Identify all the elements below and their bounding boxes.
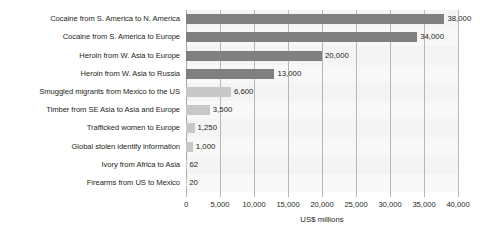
x-tick-label: 40,000: [446, 199, 469, 210]
value-axis-ticks: 05,00010,00015,00020,00025,00030,00035,0…: [0, 199, 492, 211]
axis-tick-mark: [288, 192, 289, 197]
plot-area: 38,00034,00020,00013,0006,6003,5001,2501…: [186, 10, 458, 192]
category-label: Cocaine from S. America to Europe: [0, 32, 180, 42]
x-tick-label: 20,000: [310, 199, 333, 210]
bar: [186, 105, 210, 115]
bar: [186, 32, 417, 42]
bar-value-label: 1,250: [195, 123, 218, 133]
axis-tick-mark: [186, 192, 187, 197]
category-label: Ivory from Africa to Asia: [0, 160, 180, 170]
bar-value-label: 3,500: [210, 105, 233, 115]
category-label: Global stolen identify information: [0, 142, 180, 152]
gridline: [458, 10, 459, 192]
category-axis: Cocaine from S. America to N. AmericaCoc…: [0, 10, 183, 192]
x-tick-label: 15,000: [276, 199, 299, 210]
bar-value-label: 62: [186, 160, 198, 170]
axis-tick-mark: [322, 192, 323, 197]
x-tick-label: 0: [184, 199, 188, 210]
bar-value-label: 13,000: [274, 69, 301, 79]
bar: [186, 51, 322, 61]
bar-value-label: 1,000: [193, 142, 216, 152]
axis-tick-mark: [424, 192, 425, 197]
category-label: Cocaine from S. America to N. America: [0, 14, 180, 24]
x-tick-label: 5,000: [210, 199, 229, 210]
bar-value-label: 38,000: [444, 14, 471, 24]
category-label: Timber from SE Asia to Asia and Europe: [0, 105, 180, 115]
bar: [186, 87, 231, 97]
axis-tick-mark: [220, 192, 221, 197]
bar: [186, 69, 274, 79]
x-tick-label: 25,000: [344, 199, 367, 210]
axis-tick-mark: [390, 192, 391, 197]
category-label: Trafficked women to Europe: [0, 123, 180, 133]
bar-value-label: 6,600: [231, 87, 254, 97]
category-label: Heroin from W. Asia to Russia: [0, 69, 180, 79]
bar-value-label: 34,000: [417, 32, 444, 42]
axis-tick-mark: [356, 192, 357, 197]
x-tick-label: 10,000: [242, 199, 265, 210]
category-label: Firearms from US to Mexico: [0, 178, 180, 188]
x-tick-label: 35,000: [412, 199, 435, 210]
bar-value-label: 20: [186, 178, 198, 188]
bar-value-label: 20,000: [322, 51, 349, 61]
bar-chart: Cocaine from S. America to N. AmericaCoc…: [0, 0, 492, 243]
bar: [186, 14, 444, 24]
axis-tick-mark: [458, 192, 459, 197]
x-tick-label: 30,000: [378, 199, 401, 210]
bar: [186, 142, 193, 152]
axis-tick-mark: [254, 192, 255, 197]
x-axis-title: US$ millions: [186, 215, 458, 224]
bar: [186, 123, 195, 133]
category-label: Heroin from W. Asia to Europe: [0, 51, 180, 61]
category-label: Smuggled migrants from Mexico to the US: [0, 87, 180, 97]
